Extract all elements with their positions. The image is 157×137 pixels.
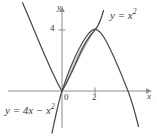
- curve-y-equals-x-squared: [23, 3, 104, 91]
- tick-label-origin: 0: [64, 93, 69, 102]
- axis-label-y: y: [57, 3, 61, 12]
- curve-label-y-equals-x-squared: y = x2: [110, 8, 136, 21]
- shaded-region-lower-boundary: [62, 30, 95, 91]
- curve-label-downward-text: y = 4x − x: [5, 104, 51, 116]
- y-axis: [59, 6, 65, 128]
- tick-label-y-4: 4: [50, 24, 55, 33]
- curve-y-equals-4x-minus-x-squared: [52, 29, 139, 133]
- curve-label-upward-exponent: 2: [133, 7, 137, 16]
- math-figure-area-between-curves: y = x2 y = 4x − x2 y x 4 0 2: [0, 0, 157, 137]
- curve-label-downward-exponent: 2: [51, 102, 55, 111]
- axis-label-x: x: [147, 92, 151, 101]
- curve-label-upward-text: y = x: [110, 9, 133, 21]
- curve-label-y-equals-4x-minus-x-squared: y = 4x − x2: [5, 103, 55, 116]
- x-axis: [8, 88, 152, 94]
- tick-label-x-2: 2: [92, 93, 97, 102]
